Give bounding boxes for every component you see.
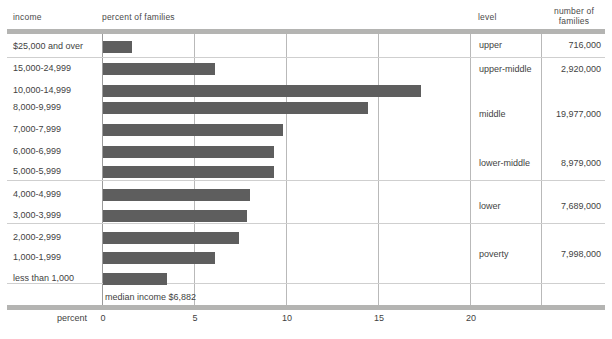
group-level-label: upper [479, 40, 502, 50]
row-label-income: 8,000-9,999 [13, 102, 61, 112]
column-header-income: income [13, 12, 42, 22]
column-header-level: level [478, 12, 496, 22]
income-distribution-chart: income percent of families level number … [0, 0, 612, 339]
bar [103, 273, 167, 285]
group-family-count: 2,920,000 [541, 64, 601, 74]
bar [103, 166, 274, 178]
group-family-count: 7,998,000 [541, 249, 601, 259]
row-label-income: 2,000-2,999 [13, 232, 61, 242]
row-label-income: $25,000 and over [13, 41, 83, 51]
group-family-count: 8,979,000 [541, 158, 601, 168]
bar [103, 146, 274, 158]
bar [103, 210, 247, 222]
x-axis-tick-0: 0 [100, 313, 105, 323]
x-axis-tick-20: 20 [466, 313, 476, 323]
column-header-number-line2: families [559, 16, 589, 26]
bar [103, 102, 368, 114]
column-header-number-line1: number of [554, 6, 594, 16]
row-label-income: 1,000-1,999 [13, 252, 61, 262]
chart-row: 8,000-9,999 [0, 98, 612, 119]
row-label-income: 3,000-3,999 [13, 210, 61, 220]
row-label-income: 10,000-14,999 [13, 85, 71, 95]
group-level-label: poverty [479, 249, 509, 259]
bar [103, 189, 250, 201]
row-label-income: 4,000-4,999 [13, 189, 61, 199]
row-label-income: 7,000-7,999 [13, 124, 61, 134]
x-axis-title: percent [57, 313, 87, 323]
row-label-income: 6,000-6,999 [13, 146, 61, 156]
x-axis-tick-5: 5 [192, 313, 197, 323]
group-level-label: upper-middle [479, 64, 532, 74]
row-label-income: 5,000-5,999 [13, 166, 61, 176]
chart-row: 4,000-4,999 [0, 185, 612, 206]
group-family-count: 19,977,000 [541, 109, 601, 119]
plot-area: $25,000 and over15,000-24,99910,000-14,9… [0, 34, 612, 305]
bar [103, 124, 283, 136]
chart-row: less than 1,000 [0, 269, 612, 290]
x-axis: percent 05101520 [0, 310, 612, 330]
x-axis-tick-15: 15 [374, 313, 384, 323]
bar [103, 85, 421, 97]
row-label-income: less than 1,000 [13, 273, 74, 283]
column-header-percent: percent of families [102, 12, 175, 22]
group-level-label: lower [479, 201, 501, 211]
row-label-income: 15,000-24,999 [13, 63, 71, 73]
group-family-count: 716,000 [541, 40, 601, 50]
bar [103, 232, 239, 244]
chart-row: 7,000-7,999 [0, 120, 612, 141]
column-header-number-of-families: number of families [545, 6, 603, 26]
x-axis-tick-10: 10 [282, 313, 292, 323]
chart-row: 3,000-3,999 [0, 206, 612, 227]
bar [103, 41, 132, 53]
chart-row: 2,000-2,999 [0, 228, 612, 249]
bar [103, 63, 215, 75]
group-level-label: middle [479, 109, 506, 119]
chart-row: 1,000-1,999 [0, 248, 612, 269]
bar [103, 252, 215, 264]
group-family-count: 7,689,000 [541, 201, 601, 211]
group-level-label: lower-middle [479, 158, 530, 168]
median-income-annotation: median income $6,882 [105, 292, 196, 302]
chart-row: $25,000 and over [0, 37, 612, 58]
